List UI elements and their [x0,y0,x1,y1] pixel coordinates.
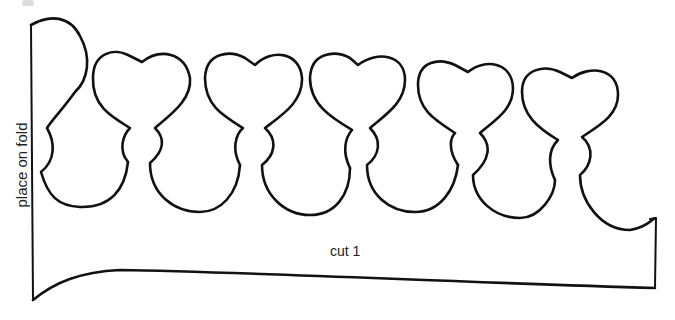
crown-template-outline [0,0,675,320]
cut-instruction-label: cut 1 [330,243,360,259]
bottom-edge [33,270,655,300]
heart-shape-3 [310,54,458,212]
right-edge [650,218,656,288]
fold-instruction-label: place on fold [13,122,30,207]
heart-shape-4 [418,62,555,218]
heart-shape-1 [93,52,240,212]
half-shape-left [31,18,128,207]
heart-shape-5 [522,69,655,230]
heart-shape-2 [205,54,350,215]
fold-line [31,25,33,300]
